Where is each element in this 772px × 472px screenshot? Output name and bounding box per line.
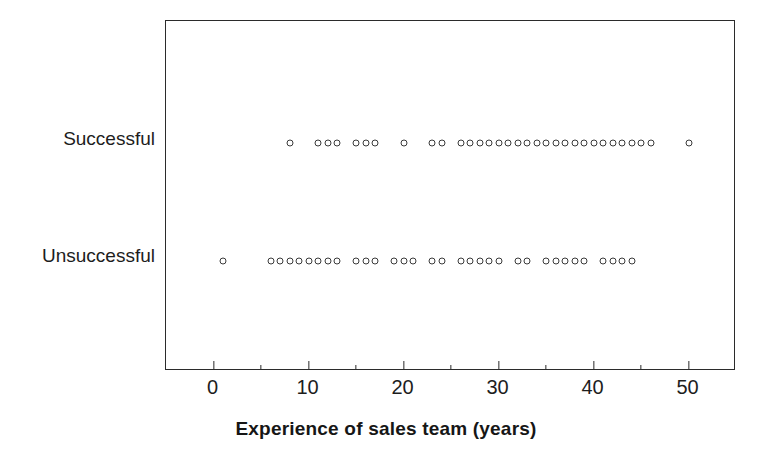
- data-point: [609, 258, 616, 265]
- x-tick-label: 10: [296, 376, 318, 399]
- data-point: [429, 258, 436, 265]
- data-point: [505, 140, 512, 147]
- data-point: [543, 258, 550, 265]
- data-point: [476, 140, 483, 147]
- data-point: [438, 140, 445, 147]
- data-point: [524, 140, 531, 147]
- data-point: [267, 258, 274, 265]
- data-point: [600, 258, 607, 265]
- x-tick-major: [308, 361, 309, 370]
- data-point: [429, 140, 436, 147]
- data-point: [353, 258, 360, 265]
- data-point: [400, 258, 407, 265]
- data-point: [486, 258, 493, 265]
- data-point: [372, 140, 379, 147]
- data-point: [400, 140, 407, 147]
- data-point: [277, 258, 284, 265]
- data-point: [609, 140, 616, 147]
- data-point: [552, 258, 559, 265]
- data-point: [590, 140, 597, 147]
- data-point: [638, 140, 645, 147]
- data-point: [524, 258, 531, 265]
- data-point: [495, 258, 502, 265]
- data-point: [334, 140, 341, 147]
- data-point: [600, 140, 607, 147]
- x-tick-major: [403, 361, 404, 370]
- data-point: [571, 140, 578, 147]
- data-point: [315, 258, 322, 265]
- data-point: [543, 140, 550, 147]
- data-point: [410, 258, 417, 265]
- x-tick-minor: [450, 365, 451, 370]
- data-point: [296, 258, 303, 265]
- x-tick-major: [593, 361, 594, 370]
- x-tick-minor: [260, 365, 261, 370]
- x-tick-major: [213, 361, 214, 370]
- x-tick-label: 30: [486, 376, 508, 399]
- data-point: [495, 140, 502, 147]
- data-point: [353, 140, 360, 147]
- data-point: [552, 140, 559, 147]
- data-point: [467, 140, 474, 147]
- data-point: [324, 140, 331, 147]
- data-point: [391, 258, 398, 265]
- data-point: [438, 258, 445, 265]
- data-point: [324, 258, 331, 265]
- data-point: [362, 258, 369, 265]
- x-axis-title: Experience of sales team (years): [0, 418, 772, 440]
- data-point: [457, 258, 464, 265]
- x-tick-minor: [355, 365, 356, 370]
- x-tick-major: [688, 361, 689, 370]
- data-point: [286, 258, 293, 265]
- data-point: [457, 140, 464, 147]
- category-label-unsuccessful: Unsuccessful: [0, 245, 155, 267]
- data-point: [486, 140, 493, 147]
- x-tick-major: [498, 361, 499, 370]
- data-point: [562, 140, 569, 147]
- category-label-successful: Successful: [0, 128, 155, 150]
- data-point: [372, 258, 379, 265]
- x-tick-minor: [545, 365, 546, 370]
- data-point: [315, 140, 322, 147]
- data-point: [305, 258, 312, 265]
- data-point: [628, 140, 635, 147]
- data-point: [286, 140, 293, 147]
- data-point: [334, 258, 341, 265]
- data-point: [220, 258, 227, 265]
- data-point: [619, 140, 626, 147]
- data-point: [619, 258, 626, 265]
- data-point: [514, 140, 521, 147]
- x-tick-label: 20: [391, 376, 413, 399]
- data-point: [362, 140, 369, 147]
- data-point: [647, 140, 654, 147]
- data-point: [571, 258, 578, 265]
- x-tick-label: 40: [581, 376, 603, 399]
- x-tick-label: 0: [207, 376, 218, 399]
- dot-plot-figure: Successful Unsuccessful 01020304050 Expe…: [0, 0, 772, 472]
- x-tick-label: 50: [676, 376, 698, 399]
- plot-area: [165, 20, 735, 370]
- data-point: [514, 258, 521, 265]
- data-point: [581, 258, 588, 265]
- data-point: [581, 140, 588, 147]
- data-point: [533, 140, 540, 147]
- data-point: [685, 140, 692, 147]
- data-point: [476, 258, 483, 265]
- x-tick-minor: [640, 365, 641, 370]
- data-point: [467, 258, 474, 265]
- data-point: [562, 258, 569, 265]
- data-point: [628, 258, 635, 265]
